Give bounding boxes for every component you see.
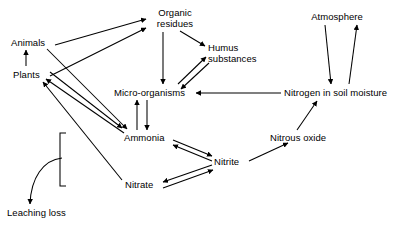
edge-nitrite-to-ammonia	[173, 145, 212, 161]
node-nitrate: Nitrate	[125, 180, 161, 191]
edge-plants-to-ammonia	[50, 72, 122, 128]
node-atmosphere: Atmosphere	[307, 12, 367, 23]
node-ammonia: Ammonia	[124, 133, 172, 144]
edge-plants-to-organic-residues	[50, 28, 146, 76]
edge-bracket-to-leaching-loss	[30, 158, 62, 204]
node-leaching-loss: Leaching loss	[7, 208, 77, 219]
edge-nitrous-oxide-to-nitrogen-in-soil-moisture	[297, 101, 317, 130]
edge-ammonia-to-nitrite	[173, 140, 212, 156]
diagram-edges-layer	[0, 0, 396, 235]
edge-atmosphere-to-nitrogen-in-soil-moisture	[325, 25, 331, 84]
nitrogen-cycle-diagram: Organic residues Atmosphere Animals Humu…	[0, 0, 396, 235]
nitrate-loss-bracket	[60, 133, 66, 186]
node-animals: Animals	[11, 38, 53, 49]
node-organic-residues: Organic residues	[151, 8, 199, 29]
edge-nitrite-to-nitrous-oxide	[249, 143, 288, 161]
node-humus-substances: Humus substances	[208, 43, 264, 64]
edge-micro-organisms-to-humus-substances	[178, 57, 206, 84]
edge-organic-residues-to-humus-substances	[180, 31, 205, 46]
edge-animals-to-organic-residues	[55, 19, 146, 45]
node-nitrogen-in-soil-moisture: Nitrogen in soil moisture	[284, 88, 392, 99]
edge-nitrogen-in-soil-moisture-to-atmosphere	[349, 25, 357, 84]
node-nitrous-oxide: Nitrous oxide	[270, 133, 338, 144]
node-plants: Plants	[13, 70, 45, 81]
node-nitrite: Nitrite	[214, 157, 248, 168]
node-micro-organisms: Micro-organisms	[114, 88, 196, 99]
